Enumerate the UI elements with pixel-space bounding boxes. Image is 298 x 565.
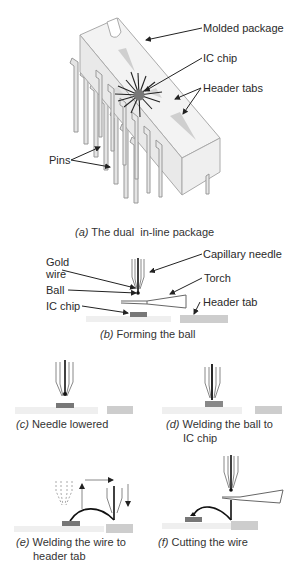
- label-ic-chip-b: IC chip: [46, 300, 80, 312]
- caption-d-letter: (d): [166, 418, 179, 430]
- caption-f-letter: (f): [158, 536, 168, 548]
- caption-c: (c) Needle lowered: [16, 418, 108, 431]
- label-header-tabs: Header tabs: [203, 82, 263, 94]
- caption-f-text: Cutting the wire: [171, 536, 247, 548]
- caption-a: (a) The dual in-line package: [75, 226, 214, 239]
- label-ic-chip: IC chip: [203, 52, 237, 64]
- figure-e-welding-wire: [14, 480, 133, 533]
- caption-d: (d) Welding the ball to: [166, 418, 273, 431]
- label-pins: Pins: [49, 154, 70, 166]
- caption-e-letter: (e): [16, 536, 29, 548]
- caption-b-letter: (b): [100, 328, 113, 340]
- ic-chip: [134, 90, 145, 101]
- caption-b-text: Forming the ball: [117, 328, 196, 340]
- figure-b-forming-ball: [62, 254, 228, 323]
- caption-b: (b) Forming the ball: [100, 328, 195, 341]
- figure-f-cutting-wire: [162, 455, 283, 530]
- label-wire: wire: [46, 268, 66, 280]
- label-header-tab: Header tab: [203, 296, 257, 308]
- figure-c-needle-lowered: [15, 360, 133, 414]
- caption-d-line2: IC chip: [183, 432, 217, 445]
- caption-a-letter: (a): [75, 226, 88, 238]
- label-gold: Gold: [46, 256, 69, 268]
- caption-e-text-1: Welding the wire to: [33, 536, 126, 548]
- label-ball: Ball: [46, 284, 64, 296]
- caption-f: (f) Cutting the wire: [158, 536, 248, 549]
- caption-e-line2: header tab: [33, 550, 86, 563]
- caption-d-text-1: Welding the ball to: [183, 418, 273, 430]
- caption-c-letter: (c): [16, 418, 29, 430]
- caption-c-text: Needle lowered: [32, 418, 108, 430]
- label-capillary-needle: Capillary needle: [203, 248, 282, 260]
- label-torch: Torch: [204, 272, 231, 284]
- caption-e: (e) Welding the wire to: [16, 536, 126, 549]
- label-molded-package: Molded package: [203, 22, 284, 34]
- figure-d-welding-ball: [162, 364, 282, 414]
- caption-a-text: The dual in-line package: [91, 226, 214, 238]
